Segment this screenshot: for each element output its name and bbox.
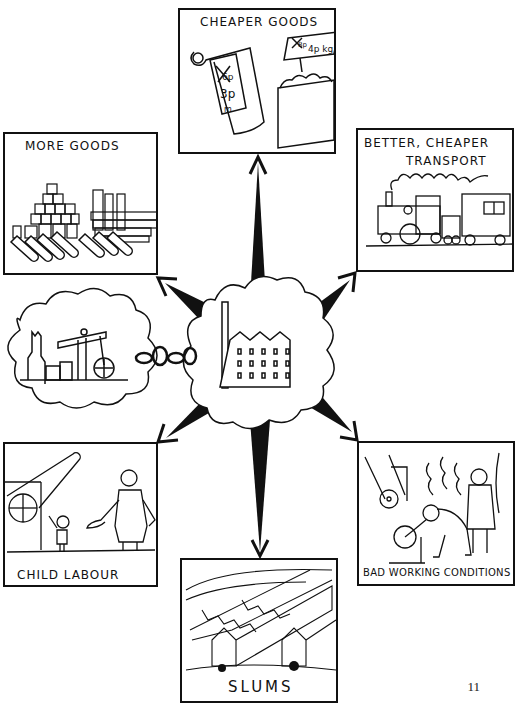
mine-cloud bbox=[8, 288, 157, 408]
price-tags-icon: 6p 3p m 8p 4p kg bbox=[180, 10, 336, 154]
panel-label-slums: SLUMS bbox=[228, 678, 294, 696]
arrow-down bbox=[250, 420, 270, 556]
svg-text:m: m bbox=[224, 105, 232, 114]
panel-better-transport: BETTER, CHEAPER TRANSPORT bbox=[356, 128, 514, 272]
panel-child-labour: CHILD LABOUR bbox=[3, 442, 158, 587]
svg-text:3p: 3p bbox=[220, 87, 235, 101]
page-number: 11 bbox=[467, 679, 480, 695]
steam-train-icon bbox=[358, 130, 514, 272]
svg-text:4p kg: 4p kg bbox=[308, 44, 333, 54]
panel-label-bad-working-conditions: BAD WORKING CONDITIONS bbox=[363, 567, 511, 578]
child-worker-icon bbox=[5, 444, 158, 587]
svg-text:6p: 6p bbox=[222, 72, 234, 82]
svg-text:8p: 8p bbox=[298, 41, 307, 49]
panel-bad-working-conditions: BAD WORKING CONDITIONS bbox=[357, 441, 515, 586]
stacked-goods-icon bbox=[5, 134, 158, 275]
panel-slums: SLUMS bbox=[180, 558, 338, 703]
panel-label-child-labour: CHILD LABOUR bbox=[17, 568, 119, 582]
panel-more-goods: MORE GOODS bbox=[3, 132, 158, 275]
overseer-worker-icon bbox=[359, 443, 515, 586]
panel-cheaper-goods: CHEAPER GOODS 6p 3p m 8p 4p kg bbox=[178, 8, 336, 154]
